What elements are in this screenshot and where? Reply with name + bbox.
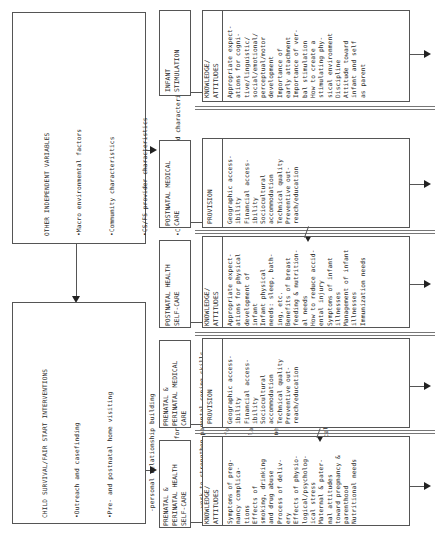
divider (222, 138, 223, 228)
intervention-item: Outreach and casefinding (73, 306, 81, 518)
outcome-title: INFANT STIMULATION (164, 50, 182, 92)
arrow-down-icon (317, 437, 323, 442)
divider (222, 10, 223, 102)
intervention-item: Pre- and postnatal home visiting (106, 306, 114, 518)
outcome-body: Geographic access- ibility Financial acc… (226, 355, 301, 424)
arrow-right-icon (424, 280, 431, 288)
band-separator (195, 230, 435, 234)
intervention-subitem: -personal relationship building (148, 306, 156, 512)
outcome-subheader: KNOWLEDGE/ ATTITUDES (203, 486, 221, 524)
connector-line (191, 222, 202, 223)
connector-line (191, 92, 202, 93)
connector-line (410, 184, 424, 185)
outcome-subheader: PROVISION (206, 389, 215, 424)
outcome-subheader: PROVISION (206, 189, 215, 224)
outcome-body: Appropriate expect- ations for cogni- ti… (226, 25, 367, 98)
other-variables-title: OTHER INDEPENDENT VARIABLES (43, 16, 51, 236)
arrow-down-icon (305, 237, 311, 242)
arrow-right-icon (150, 466, 157, 474)
outcome-subheader: KNOWLEDGE/ ATTITUDES (203, 60, 221, 98)
outcome-title: PRENATAL & PERINATAL HEALTH SELF-CARE (162, 464, 190, 526)
connector-line (191, 322, 202, 323)
interventions-title: CHILD SURVIVAL/FAIR START INTERVENTIONS (41, 306, 49, 518)
other-var-item: Macro environmental factors (75, 16, 83, 236)
arrow-right-icon (424, 180, 431, 188)
outcome-body: Geographic access- ibility Financial acc… (226, 155, 301, 224)
other-var-item: Community characteristics (108, 16, 116, 236)
connector-line (410, 284, 424, 285)
connector-line (410, 486, 424, 487)
band-separator (195, 332, 435, 336)
connector-line (410, 54, 424, 55)
arrow-right-icon (424, 50, 431, 58)
outcome-body: Symptoms of preg- nancy complica- tions … (226, 455, 359, 524)
outcome-body: Appropriate expect- ations for physical … (226, 249, 367, 326)
band-separator (195, 106, 435, 110)
connector-line (76, 244, 77, 296)
arrow-right-icon (150, 146, 157, 154)
divider (222, 436, 223, 526)
divider (222, 338, 223, 428)
outcome-title: POSTNATAL HEALTH SELF-CARE (164, 264, 182, 326)
other-var-item: CS/FS provider characteristics (141, 16, 149, 236)
connector-line (191, 424, 202, 425)
connector-line (410, 386, 424, 387)
arrow-right-icon (424, 382, 431, 390)
connector-line (191, 522, 202, 523)
outcome-title: PRENATAL & PERINATAL MEDICAL CARE (162, 361, 190, 426)
outcome-subheader: KNOWLEDGE/ ATTITUDES (203, 288, 221, 326)
band-separator (195, 430, 435, 434)
outcome-title: POSTNATAL MEDICAL CARE (164, 161, 182, 226)
divider (222, 236, 223, 328)
arrow-right-icon (424, 482, 431, 490)
